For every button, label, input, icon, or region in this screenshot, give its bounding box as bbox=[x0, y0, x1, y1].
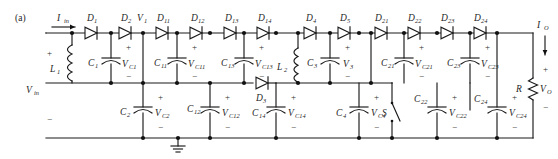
capacitor-C13-label: C bbox=[221, 58, 228, 68]
diode-D2 bbox=[119, 27, 131, 39]
voltage-VC14-label: V bbox=[288, 108, 295, 118]
voltage-VC1-label: V bbox=[122, 59, 129, 69]
capacitor-C14-label: C bbox=[252, 108, 259, 118]
voltage-VC1-sub: C1 bbox=[129, 63, 136, 70]
node-V1-sub: 1 bbox=[144, 17, 147, 24]
voltage-VC24-label: V bbox=[509, 108, 516, 118]
diode-D4-sub: 4 bbox=[313, 17, 317, 24]
vin-label: V bbox=[26, 85, 33, 95]
diode-D12-label: D bbox=[190, 13, 198, 23]
C11-minus: − bbox=[192, 71, 197, 81]
panel-label: (a) bbox=[15, 13, 26, 24]
diode-D1-label: D bbox=[86, 13, 94, 23]
voltage-VC22-sub: C22 bbox=[456, 112, 467, 119]
inductor-L2-sub: 2 bbox=[284, 66, 288, 73]
diode-D14-label: D bbox=[257, 13, 265, 23]
capacitor-C21-label: C bbox=[381, 58, 388, 68]
diode-D1 bbox=[85, 27, 97, 39]
capacitor-C13 bbox=[235, 33, 253, 83]
vout-plus: + bbox=[543, 64, 548, 74]
diode-D13 bbox=[224, 27, 236, 39]
C13-plus: + bbox=[259, 42, 264, 52]
capacitor-C14-sub: 14 bbox=[259, 112, 266, 119]
voltage-VC24-sub: C24 bbox=[516, 112, 527, 119]
C2-minus: − bbox=[158, 122, 163, 132]
diode-D2-label: D bbox=[120, 13, 128, 23]
capacitor-C4-label: C bbox=[336, 108, 343, 118]
diode-D5 bbox=[338, 27, 350, 39]
diode-D12 bbox=[190, 27, 202, 39]
diode-D5-sub: 5 bbox=[347, 17, 350, 24]
C14-plus: + bbox=[291, 92, 296, 102]
switch-S-label: S bbox=[382, 108, 387, 118]
capacitor-C21-sub: 21 bbox=[388, 62, 394, 69]
capacitor-C2 bbox=[134, 107, 152, 138]
capacitor-C3 bbox=[321, 33, 339, 83]
vin-sublabel: in bbox=[34, 89, 39, 96]
capacitor-C12-sub: 12 bbox=[194, 108, 201, 115]
ground-icon bbox=[171, 138, 185, 152]
diode-D3 bbox=[256, 77, 276, 89]
capacitor-C1-label: C bbox=[88, 58, 95, 68]
capacitor-C3-sub: 3 bbox=[313, 62, 317, 69]
diode-D23-sub: 23 bbox=[448, 17, 454, 24]
circuit-schematic: .w{stroke:#1a1a1a;stroke-width:1.15;fill… bbox=[0, 0, 558, 159]
voltage-VC21-sub: C21 bbox=[422, 63, 433, 70]
voltage-VC12-label: V bbox=[222, 108, 229, 118]
capacitor-C1 bbox=[102, 33, 120, 83]
voltage-VC2-sub: C2 bbox=[162, 112, 170, 119]
diode-D24-label: D bbox=[473, 13, 481, 23]
diode-D21 bbox=[375, 27, 387, 39]
C21-plus: + bbox=[419, 42, 424, 52]
voltage-VC23-label: V bbox=[481, 59, 488, 69]
diode-D12-sub: 12 bbox=[198, 17, 205, 24]
C11-plus: + bbox=[192, 42, 197, 52]
node-V1-label: V bbox=[137, 13, 144, 23]
voltage-VC11-label: V bbox=[188, 59, 195, 69]
diode-D22-sub: 22 bbox=[415, 17, 422, 24]
voltage-VC12-sub: C12 bbox=[229, 112, 240, 119]
capacitor-C12 bbox=[201, 83, 219, 138]
voltage-VC13-label: V bbox=[255, 59, 262, 69]
diode-D22 bbox=[408, 27, 420, 39]
diode-D11 bbox=[156, 27, 168, 39]
switch-S[interactable] bbox=[391, 83, 400, 138]
capacitor-C24-sub: 24 bbox=[481, 98, 488, 105]
capacitor-C24 bbox=[488, 33, 506, 138]
output-current-arrow bbox=[543, 36, 548, 55]
inductor-L1-label: L bbox=[49, 64, 55, 74]
vout-minus: − bbox=[543, 102, 548, 112]
inductor-L2-label: L bbox=[276, 62, 282, 72]
capacitor-C21 bbox=[395, 33, 413, 83]
C4-minus: − bbox=[374, 122, 379, 132]
voltage-VC2-label: V bbox=[155, 108, 162, 118]
C23-plus: + bbox=[485, 42, 490, 52]
C23-minus: − bbox=[485, 71, 490, 81]
diode-D14 bbox=[257, 27, 269, 39]
C12-plus: + bbox=[225, 92, 230, 102]
C4-plus: + bbox=[374, 92, 379, 102]
capacitor-C11 bbox=[168, 33, 186, 83]
capacitor-C22-sub: 22 bbox=[421, 98, 428, 105]
diode-D13-label: D bbox=[224, 13, 232, 23]
node-dots bbox=[70, 31, 499, 140]
capacitor-C11-sub: 11 bbox=[161, 62, 167, 69]
diode-D14-sub: 14 bbox=[265, 17, 272, 24]
diode-D23 bbox=[441, 27, 453, 39]
C1-plus: + bbox=[126, 42, 131, 52]
diode-D3-label: D bbox=[255, 93, 263, 103]
C22-plus: + bbox=[452, 92, 457, 102]
voltage-V3-label: V bbox=[343, 59, 350, 69]
diode-D2-sub: 2 bbox=[128, 17, 132, 24]
capacitor-C14 bbox=[267, 83, 285, 138]
diode-D13-sub: 13 bbox=[232, 17, 238, 24]
voltage-VC21-label: V bbox=[415, 59, 422, 69]
capacitor-C22-label: C bbox=[414, 94, 421, 104]
diode-D24 bbox=[474, 27, 486, 39]
resistor-R bbox=[529, 78, 538, 100]
capacitor-C4-sub: 4 bbox=[343, 112, 347, 119]
output-current-sub: O bbox=[544, 24, 549, 31]
C3-minus: − bbox=[345, 71, 350, 81]
diode-D11-label: D bbox=[156, 13, 164, 23]
input-current-label: I bbox=[56, 13, 61, 23]
